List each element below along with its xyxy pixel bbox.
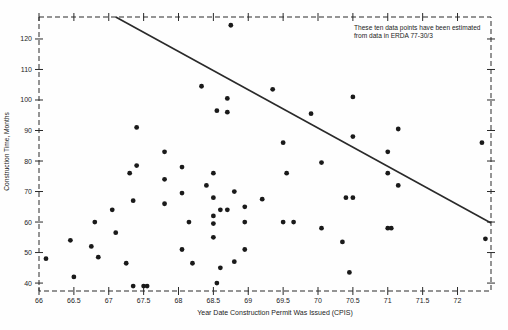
data-point bbox=[309, 111, 314, 116]
data-point bbox=[218, 207, 223, 212]
data-point bbox=[92, 220, 97, 225]
data-point bbox=[242, 204, 247, 209]
data-point bbox=[162, 201, 167, 206]
data-point bbox=[187, 220, 192, 225]
x-axis-title: Year Date Construction Permit Was Issued… bbox=[120, 309, 430, 316]
data-point bbox=[199, 84, 204, 89]
data-point bbox=[347, 270, 352, 275]
annotation-line-1: These ten data points have been estimate… bbox=[354, 24, 480, 31]
data-point bbox=[396, 183, 401, 188]
data-point bbox=[211, 171, 216, 176]
data-point bbox=[190, 261, 195, 266]
data-point bbox=[350, 95, 355, 100]
data-point bbox=[131, 284, 136, 289]
data-point bbox=[96, 255, 101, 260]
data-point bbox=[131, 198, 136, 203]
data-point bbox=[180, 165, 185, 170]
data-point bbox=[214, 108, 219, 113]
x-tick-label: 69.5 bbox=[276, 297, 290, 304]
data-point bbox=[242, 247, 247, 252]
data-point bbox=[211, 221, 216, 226]
data-point bbox=[281, 140, 286, 145]
x-tick-label: 66 bbox=[35, 297, 43, 304]
data-point bbox=[225, 207, 230, 212]
data-point bbox=[44, 256, 49, 261]
data-point bbox=[340, 239, 345, 244]
data-point bbox=[145, 284, 150, 289]
data-point bbox=[134, 125, 139, 130]
x-tick-label: 71.5 bbox=[416, 297, 430, 304]
data-point bbox=[228, 23, 233, 28]
data-point bbox=[211, 214, 216, 219]
y-tick-label: 60 bbox=[24, 219, 32, 226]
data-point bbox=[483, 236, 488, 241]
x-tick-label: 66.5 bbox=[67, 297, 81, 304]
data-point bbox=[124, 261, 129, 266]
data-point bbox=[225, 96, 230, 101]
data-point bbox=[211, 235, 216, 240]
data-point bbox=[110, 207, 115, 212]
data-point bbox=[396, 127, 401, 132]
data-point bbox=[281, 220, 286, 225]
x-tick-label: 68.5 bbox=[207, 297, 221, 304]
data-point bbox=[350, 195, 355, 200]
data-point bbox=[211, 195, 216, 200]
data-point bbox=[180, 247, 185, 252]
annotation-line-2: from data in ERDA 77-30/3 bbox=[354, 32, 433, 39]
data-point bbox=[71, 275, 76, 280]
data-point bbox=[284, 171, 289, 176]
data-point bbox=[385, 171, 390, 176]
data-point bbox=[389, 226, 394, 231]
data-point bbox=[218, 265, 223, 270]
data-point bbox=[350, 134, 355, 139]
y-tick-label: 100 bbox=[20, 96, 32, 103]
x-tick-label: 71 bbox=[384, 297, 392, 304]
data-point bbox=[242, 220, 247, 225]
annotation-note: These ten data points have been estimate… bbox=[354, 24, 494, 40]
data-point bbox=[214, 281, 219, 286]
x-tick-label: 70.5 bbox=[346, 297, 360, 304]
data-point bbox=[113, 230, 118, 235]
data-point bbox=[127, 171, 132, 176]
data-point bbox=[162, 149, 167, 154]
y-tick-label: 40 bbox=[24, 280, 32, 287]
x-tick-label: 68 bbox=[175, 297, 183, 304]
plot-area: 6666.56767.56868.56969.57070.57171.57240… bbox=[0, 0, 508, 330]
data-point bbox=[180, 191, 185, 196]
y-tick-label: 110 bbox=[21, 66, 32, 73]
data-point bbox=[344, 195, 349, 200]
plot-border bbox=[39, 17, 491, 291]
data-point bbox=[319, 226, 324, 231]
x-tick-label: 72 bbox=[454, 297, 462, 304]
y-tick-label: 120 bbox=[20, 35, 32, 42]
data-point bbox=[134, 163, 139, 168]
data-point bbox=[385, 149, 390, 154]
y-axis-title: Construction Time, Months bbox=[3, 77, 10, 227]
data-point bbox=[291, 220, 296, 225]
scatter-chart: 6666.56767.56868.56969.57070.57171.57240… bbox=[0, 0, 508, 330]
data-point bbox=[260, 197, 265, 202]
y-tick-label: 50 bbox=[24, 249, 32, 256]
x-tick-label: 67.5 bbox=[137, 297, 151, 304]
trend-line bbox=[116, 17, 491, 223]
y-tick-label: 90 bbox=[24, 127, 32, 134]
y-tick-label: 80 bbox=[24, 158, 32, 165]
y-tick-label: 70 bbox=[24, 188, 32, 195]
x-tick-label: 67 bbox=[105, 297, 113, 304]
data-point bbox=[89, 244, 94, 249]
data-point bbox=[480, 140, 485, 145]
x-tick-label: 69 bbox=[244, 297, 252, 304]
data-point bbox=[270, 87, 275, 92]
data-point bbox=[319, 160, 324, 165]
data-point bbox=[162, 177, 167, 182]
data-point bbox=[232, 189, 237, 194]
data-point bbox=[204, 183, 209, 188]
data-point bbox=[68, 238, 73, 243]
x-tick-label: 70 bbox=[314, 297, 322, 304]
data-point bbox=[225, 110, 230, 115]
data-point bbox=[232, 259, 237, 264]
